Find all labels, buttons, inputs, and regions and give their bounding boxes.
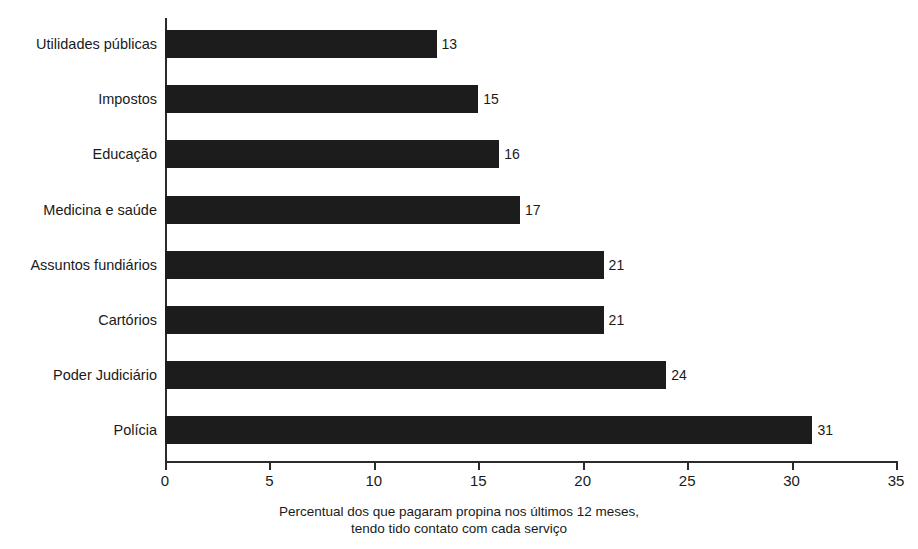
bar <box>165 251 604 279</box>
x-tick <box>792 461 794 470</box>
x-tick-label: 20 <box>574 473 591 488</box>
category-label: Medicina e saúde <box>43 202 157 217</box>
bar-value-label: 15 <box>483 92 499 106</box>
bar-row: Poder Judiciário24 <box>165 361 896 389</box>
bar-row: Impostos15 <box>165 85 896 113</box>
bar-value-label: 16 <box>504 147 520 161</box>
category-label: Utilidades públicas <box>36 37 157 52</box>
x-tick-label: 35 <box>888 473 905 488</box>
bar-chart: Utilidades públicas13Impostos15Educação1… <box>0 0 918 549</box>
bar-value-label: 13 <box>442 37 458 51</box>
category-label: Polícia <box>113 423 157 438</box>
caption-line-2: tendo tido contato com cada serviço <box>0 520 918 537</box>
x-tick <box>687 461 689 470</box>
x-axis-line <box>165 461 897 463</box>
bar-row: Medicina e saúde17 <box>165 196 896 224</box>
x-tick <box>583 461 585 470</box>
bar-row: Educação16 <box>165 140 896 168</box>
bar-value-label: 17 <box>525 203 541 217</box>
x-tick-label: 30 <box>783 473 800 488</box>
bar <box>165 140 499 168</box>
x-tick-label: 25 <box>679 473 696 488</box>
bar-value-label: 31 <box>817 423 833 437</box>
x-tick <box>374 461 376 470</box>
bar-value-label: 21 <box>609 258 625 272</box>
bar <box>165 85 478 113</box>
x-tick <box>896 461 898 470</box>
category-label: Impostos <box>98 92 157 107</box>
caption-line-1: Percentual dos que pagaram propina nos ú… <box>0 503 918 520</box>
bar-row: Assuntos fundiários21 <box>165 251 896 279</box>
bar-row: Utilidades públicas13 <box>165 30 896 58</box>
bar-value-label: 21 <box>609 313 625 327</box>
plot-area: Utilidades públicas13Impostos15Educação1… <box>165 18 896 461</box>
category-label: Cartórios <box>98 313 157 328</box>
category-label: Educação <box>93 147 158 162</box>
x-tick-label: 15 <box>470 473 487 488</box>
x-tick <box>269 461 271 470</box>
bar <box>165 306 604 334</box>
category-label: Assuntos fundiários <box>30 258 157 273</box>
bar <box>165 416 812 444</box>
chart-caption: Percentual dos que pagaram propina nos ú… <box>0 503 918 537</box>
bar-row: Polícia31 <box>165 416 896 444</box>
bar <box>165 30 437 58</box>
x-tick-label: 5 <box>265 473 273 488</box>
x-tick <box>165 461 167 470</box>
bar <box>165 196 520 224</box>
x-tick-label: 0 <box>161 473 169 488</box>
x-tick <box>478 461 480 470</box>
bar-value-label: 24 <box>671 368 687 382</box>
x-tick-label: 10 <box>366 473 383 488</box>
bar <box>165 361 666 389</box>
category-label: Poder Judiciário <box>53 368 157 383</box>
bar-row: Cartórios21 <box>165 306 896 334</box>
